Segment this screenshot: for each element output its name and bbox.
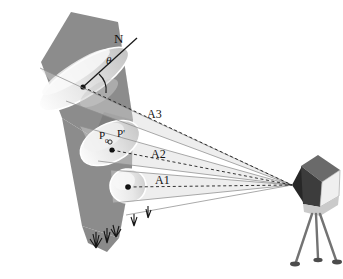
label-pprime: P' xyxy=(117,127,125,139)
figure-canvas: N θ P 0 P' A3 A2 A1 xyxy=(0,0,343,279)
label-p0-subscript: 0 xyxy=(105,137,109,145)
grass-tuft-3 xyxy=(131,214,137,226)
lidar-footprint-diagram: N θ P 0 P' A3 A2 A1 xyxy=(0,0,343,279)
laser-scanner xyxy=(292,155,340,216)
tripod-foot-left xyxy=(290,262,300,267)
tripod-leg-left xyxy=(296,214,312,262)
tripod-leg-middle xyxy=(316,214,318,258)
tripod xyxy=(296,214,336,262)
tripod-foot-right xyxy=(332,260,342,265)
label-a1-text: A1 xyxy=(155,173,170,187)
label-normal: N xyxy=(114,31,124,46)
tripod-leg-right xyxy=(320,214,336,260)
grass-tuft-4 xyxy=(146,206,151,218)
label-a1: A1 xyxy=(155,173,170,187)
label-a3-text: A3 xyxy=(147,107,162,121)
label-a3: A3 xyxy=(147,107,162,121)
label-a2: A2 xyxy=(151,147,166,161)
label-theta: θ xyxy=(106,54,112,66)
label-a2-text: A2 xyxy=(151,147,166,161)
tripod-foot-middle xyxy=(313,258,322,262)
